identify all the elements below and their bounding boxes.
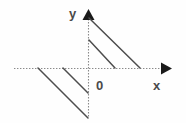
coordinate-diagram: y x 0 [0,0,186,123]
upper-right-long-segment [89,18,140,68]
x-axis-label: x [153,79,160,92]
origin-label: 0 [96,79,103,92]
lower-left-long-segment [38,68,88,118]
upper-right-short-segment [89,40,115,68]
y-axis-label: y [69,7,76,20]
diagram-canvas [0,0,186,123]
x-axis-arrowhead-icon [161,63,172,75]
lower-left-short-segment [63,68,88,93]
